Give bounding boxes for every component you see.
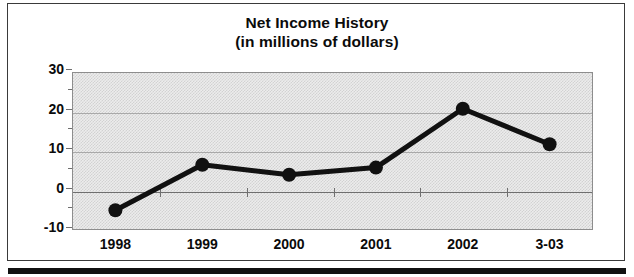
- data-point-2002: [456, 102, 470, 116]
- page-title: Net Income History: [8, 13, 626, 32]
- data-point-2000: [282, 168, 296, 182]
- data-point-1999: [195, 158, 209, 172]
- y-axis-label-20: 20: [8, 102, 64, 116]
- y-axis-label-30: 30: [8, 62, 64, 76]
- series-line-net-income: [115, 109, 549, 211]
- data-point-3-03: [543, 137, 557, 151]
- data-point-2001: [369, 161, 383, 175]
- x-axis-label-2000: 2000: [244, 236, 334, 252]
- chart-frame: Net Income History (in millions of dolla…: [7, 3, 625, 261]
- x-axis-label-2001: 2001: [331, 236, 421, 252]
- y-tick-major-30: [66, 69, 72, 70]
- x-axis-label-3-03: 3-03: [505, 236, 595, 252]
- y-axis-label--10: -10: [8, 220, 64, 234]
- chart-subtitle: (in millions of dollars): [8, 32, 626, 51]
- y-axis-label-10: 10: [8, 141, 64, 155]
- data-point-1998: [108, 203, 122, 217]
- x-axis-label-1998: 1998: [70, 236, 160, 252]
- title-block: Net Income History (in millions of dolla…: [8, 13, 626, 51]
- chart-page: Net Income History (in millions of dolla…: [0, 0, 634, 277]
- bottom-rule: [8, 268, 626, 274]
- x-axis-label-1999: 1999: [157, 236, 247, 252]
- x-axis-label-2002: 2002: [418, 236, 508, 252]
- y-axis-label-0: 0: [8, 181, 64, 195]
- series-line-chart: [72, 72, 593, 230]
